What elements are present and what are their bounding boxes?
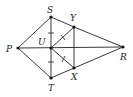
tick-UX (62, 56, 65, 62)
geometry-diagram: P S Y U R X T (0, 0, 133, 97)
label-Y: Y (70, 13, 77, 23)
point-P (16, 46, 19, 49)
labels: P S Y U R X T (5, 5, 127, 93)
label-R: R (119, 52, 127, 62)
label-X: X (70, 72, 78, 82)
segment-PS (18, 17, 51, 48)
label-U: U (38, 37, 46, 47)
segment-PR (18, 47, 123, 48)
label-S: S (47, 5, 53, 15)
segment-UX (51, 48, 74, 68)
point-X (72, 66, 75, 69)
point-S (49, 15, 52, 18)
segments (18, 17, 123, 78)
point-R (121, 45, 124, 48)
segment-XR (74, 47, 123, 68)
segment-PT (18, 48, 51, 78)
label-T: T (48, 83, 55, 93)
point-T (49, 76, 52, 79)
point-Y (72, 25, 75, 28)
point-U (49, 46, 52, 49)
segment-YR (74, 27, 123, 47)
label-P: P (5, 44, 13, 54)
